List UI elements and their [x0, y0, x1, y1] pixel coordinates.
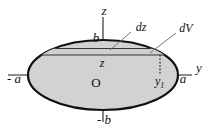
dz-slab [20, 48, 186, 55]
semi-minor-bottom-label: - b [97, 112, 112, 127]
semi-major-right-label: a [180, 71, 187, 86]
dv-leader-line [150, 33, 176, 53]
ellipse-figure: z y b - b - a a O z dz dV y1 [0, 0, 209, 128]
z-axis-label: z [100, 3, 106, 18]
y1-subscript: 1 [160, 81, 164, 90]
semi-major-left-label: - a [7, 71, 22, 86]
y-axis-label: y [194, 60, 202, 75]
origin-label: O [91, 75, 100, 90]
height-level-label: z [99, 56, 105, 70]
dv-label: dV [179, 21, 194, 35]
semi-minor-top-label: b [93, 30, 100, 45]
dz-label: dz [136, 20, 147, 34]
